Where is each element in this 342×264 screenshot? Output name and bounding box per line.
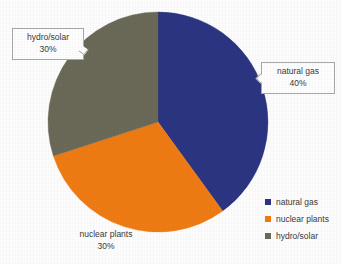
callout-natural-gas-label: natural gas — [267, 66, 329, 78]
label-nuclear-plants: nuclear plants 30% — [52, 228, 160, 252]
legend-item-label: nuclear plants — [276, 214, 329, 224]
legend-swatch-icon — [265, 199, 271, 205]
legend-swatch-icon — [265, 216, 271, 222]
legend-item-label: natural gas — [276, 197, 318, 207]
callout-hydro-solar-label: hydro/solar — [18, 32, 78, 44]
label-nuclear-plants-value: 30% — [52, 240, 160, 252]
legend-item: hydro/solar — [265, 227, 329, 244]
callout-natural-gas-value: 40% — [267, 78, 329, 90]
chart-legend: natural gasnuclear plantshydro/solar — [265, 193, 329, 244]
legend-item: natural gas — [265, 193, 329, 210]
legend-swatch-icon — [265, 233, 271, 239]
legend-item-label: hydro/solar — [276, 231, 318, 241]
pie-chart-screenshot: hydro/solar 30% natural gas 40% nuclear … — [0, 0, 342, 264]
label-nuclear-plants-label: nuclear plants — [52, 228, 160, 240]
callout-hydro-solar-value: 30% — [18, 44, 78, 56]
callout-natural-gas: natural gas 40% — [261, 62, 335, 94]
callout-hydro-solar: hydro/solar 30% — [12, 28, 84, 60]
legend-item: nuclear plants — [265, 210, 329, 227]
